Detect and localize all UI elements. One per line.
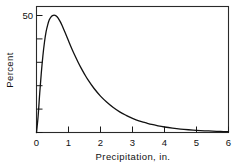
x-tick-label-3: 3 — [130, 137, 135, 148]
y-tick-label-50: 50 — [22, 10, 33, 21]
x-tick-label-6: 6 — [226, 137, 231, 148]
x-tick-label-1: 1 — [66, 137, 71, 148]
x-tick-label-2: 2 — [98, 137, 103, 148]
x-tick-label-0: 0 — [34, 137, 39, 148]
precipitation-percent-line-chart: 50 0 1 2 3 4 5 6 Precipitation, in. Perc… — [0, 0, 239, 163]
x-tick-label-4: 4 — [162, 137, 167, 148]
chart-figure: 50 0 1 2 3 4 5 6 Precipitation, in. Perc… — [0, 0, 239, 163]
x-tick-label-5: 5 — [194, 137, 199, 148]
x-axis-title: Precipitation, in. — [96, 151, 171, 162]
y-axis-title: Percent — [4, 52, 15, 88]
